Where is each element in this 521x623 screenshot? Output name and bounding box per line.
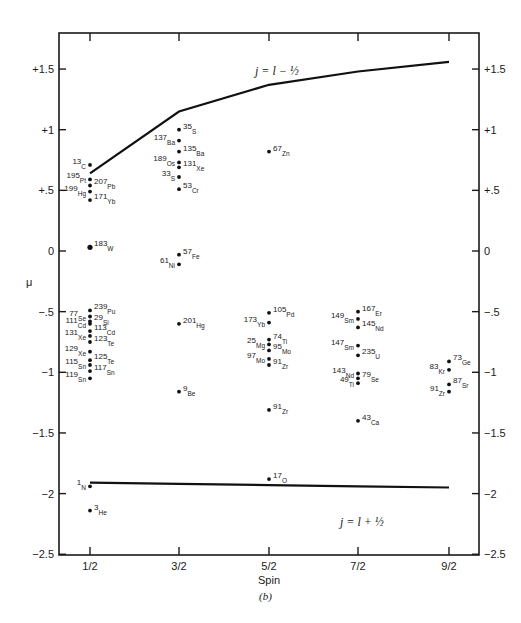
point-marker xyxy=(267,150,271,154)
point-label: 53Cr xyxy=(183,181,200,194)
data-point: 147Sm xyxy=(331,338,360,351)
point-label: 199Hg xyxy=(64,184,86,198)
x-tick-label: 3/2 xyxy=(171,560,186,572)
point-label: 131Xe xyxy=(183,159,205,172)
point-marker xyxy=(88,334,92,338)
point-marker xyxy=(88,329,92,333)
point-label: 189Os xyxy=(153,154,175,167)
point-label: 83Kr xyxy=(430,362,446,375)
data-point: 35S xyxy=(177,122,197,135)
data-point: 33S xyxy=(162,169,181,182)
point-marker xyxy=(88,198,92,202)
plot-frame xyxy=(59,33,479,555)
point-label: 17O xyxy=(273,471,287,484)
y-tick-label: 0 xyxy=(484,245,490,257)
point-label: 1N xyxy=(77,478,86,491)
x-axis: 1/23/25/27/29/2 xyxy=(82,33,456,572)
point-marker xyxy=(88,340,92,344)
data-point: 87Sr xyxy=(447,376,469,389)
point-marker xyxy=(356,344,360,348)
point-marker xyxy=(267,349,271,353)
y-tick-label: +.5 xyxy=(484,184,500,196)
point-label: 131Xe xyxy=(65,328,87,341)
point-label: 9Be xyxy=(183,384,196,397)
data-point: 183W xyxy=(87,239,114,252)
data-point: 3He xyxy=(88,503,107,516)
point-label: 137Ba xyxy=(154,133,176,146)
point-label: 13C xyxy=(72,157,86,170)
point-marker xyxy=(88,358,92,362)
point-marker xyxy=(356,317,360,321)
y-tick-label: −1 xyxy=(41,366,54,378)
point-marker xyxy=(177,390,181,394)
data-point: 53Cr xyxy=(177,181,200,194)
point-label: 43Ca xyxy=(362,413,380,426)
data-point: 149Sm xyxy=(331,311,360,324)
point-marker xyxy=(88,163,92,167)
data-point: 97Mo xyxy=(247,351,271,364)
y-tick-label: −2 xyxy=(484,488,497,500)
point-marker xyxy=(267,357,271,361)
y-tick-label: 0 xyxy=(48,245,54,257)
data-point: 25Mg xyxy=(247,336,271,350)
y-axis-title: μ xyxy=(26,276,32,288)
point-marker xyxy=(177,128,181,132)
data-point: 145Nd xyxy=(356,319,384,332)
y-tick-label: +.5 xyxy=(38,184,54,196)
y-tick-label: −.5 xyxy=(484,306,500,318)
point-label: 183W xyxy=(94,239,114,252)
upper-curve-label: j = l − ½ xyxy=(253,64,299,78)
data-point: 137Ba xyxy=(154,133,181,146)
y-tick-label: +1 xyxy=(484,124,497,136)
point-marker xyxy=(177,262,181,266)
point-label: 119Sn xyxy=(65,370,86,383)
y-tick-label: −2.5 xyxy=(484,548,506,560)
point-marker xyxy=(267,477,271,481)
x-tick-label: 9/2 xyxy=(441,560,456,572)
point-marker xyxy=(177,139,181,143)
point-label: 25Mg xyxy=(247,336,265,350)
y-tick-label: −.5 xyxy=(38,306,54,318)
point-label: 87Sr xyxy=(453,376,469,389)
y-tick-label: −2.5 xyxy=(32,548,54,560)
point-marker xyxy=(447,368,451,372)
point-marker xyxy=(356,326,360,330)
data-point: 91Zr xyxy=(267,402,289,415)
point-label: 149Sm xyxy=(331,311,354,324)
point-marker xyxy=(356,310,360,314)
data-point: 61Ni xyxy=(160,256,181,269)
data-point: 201Hg xyxy=(177,316,205,330)
point-marker xyxy=(88,322,92,326)
point-label: 91Zr xyxy=(273,402,289,415)
point-label: 97Mo xyxy=(247,351,265,364)
point-label: 35S xyxy=(183,122,197,135)
point-marker xyxy=(88,309,92,313)
data-point: 131Xe xyxy=(65,328,92,341)
point-label: 167Er xyxy=(362,304,383,317)
point-label: 171Yb xyxy=(94,192,116,205)
point-label: 115Sn xyxy=(65,357,86,370)
point-label: 57Fe xyxy=(183,247,200,260)
point-label: 73Ge xyxy=(453,353,471,366)
point-marker xyxy=(88,184,92,188)
point-marker xyxy=(447,390,451,394)
data-point: 207Pb xyxy=(88,177,116,190)
x-tick-label: 7/2 xyxy=(350,560,365,572)
data-point: 79Se xyxy=(356,370,379,383)
y-tick-label: +1.5 xyxy=(32,63,54,75)
y-axis-right: +1.5+1+.50−.5−1−1.5−2−2.5 xyxy=(472,63,506,560)
point-marker xyxy=(447,359,451,363)
point-marker xyxy=(267,408,271,412)
schmidt-line-upper xyxy=(90,62,449,174)
data-point: 173Yb xyxy=(244,315,271,328)
point-label: 201Hg xyxy=(183,316,205,330)
point-label: 145Nd xyxy=(362,319,384,332)
point-marker xyxy=(177,322,181,326)
point-label: 135Ba xyxy=(183,144,205,157)
point-marker xyxy=(87,245,92,250)
point-marker xyxy=(267,321,271,325)
data-point: 9Be xyxy=(177,384,196,397)
y-tick-label: −2 xyxy=(41,488,54,500)
point-marker xyxy=(267,311,271,315)
data-point: 73Ge xyxy=(447,353,471,366)
